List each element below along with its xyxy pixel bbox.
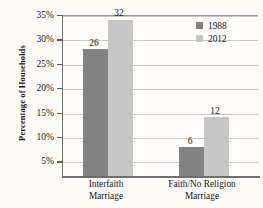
bar-1988-faithnoreligion: [179, 147, 204, 176]
bar-1988-interfaith: [83, 49, 108, 176]
y-tick: [57, 88, 63, 89]
y-tick: [57, 39, 63, 40]
bar-2012-faithnoreligion: [204, 117, 229, 176]
x-axis-label-line2: Marriage: [148, 191, 256, 203]
y-axis-label: 30%: [12, 34, 54, 44]
x-axis-label-line1: Interfaith: [89, 179, 124, 189]
x-axis-label-faithnoreligion: Faith/No Religion Marriage: [148, 179, 256, 202]
y-axis-label: 10%: [12, 132, 54, 142]
y-tick: [57, 15, 63, 16]
legend-label-2012: 2012: [208, 34, 227, 44]
y-axis-label: 15%: [12, 108, 54, 118]
y-axis-label: 35%: [12, 10, 54, 20]
bar-2012-interfaith: [108, 20, 133, 176]
bar-value-label-1988-faithnoreligion: 6: [173, 136, 207, 146]
legend-item-2012: 2012: [196, 32, 227, 45]
legend: 1988 2012: [196, 19, 227, 45]
x-axis-label-line2: Marriage: [52, 191, 160, 203]
legend-label-1988: 1988: [208, 21, 227, 31]
legend-swatch-icon-1988: [196, 22, 203, 29]
y-axis-label: 5%: [12, 156, 54, 166]
legend-item-1988: 1988: [196, 19, 227, 32]
bar-value-label-2012-faithnoreligion: 12: [198, 106, 232, 116]
bar-value-label-1988-interfaith: 26: [77, 38, 111, 48]
x-axis-label-interfaith: Interfaith Marriage: [52, 179, 160, 202]
bar-chart: Percentage of Households 35% 30% 25% 20%…: [0, 0, 263, 208]
x-axis-line: [62, 176, 260, 178]
y-tick: [57, 161, 63, 162]
bar-value-label-2012-interfaith: 32: [102, 8, 136, 18]
gridline: [63, 16, 258, 17]
y-tick: [57, 64, 63, 65]
y-tick: [57, 137, 63, 138]
legend-swatch-icon-2012: [196, 35, 203, 42]
y-tick: [57, 113, 63, 114]
y-axis-label: 25%: [12, 59, 54, 69]
y-axis-label: 20%: [12, 83, 54, 93]
x-axis-label-line1: Faith/No Religion: [168, 179, 235, 189]
